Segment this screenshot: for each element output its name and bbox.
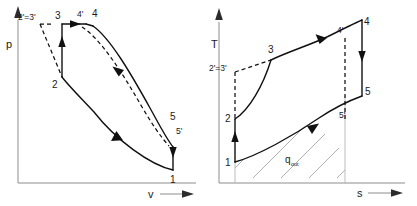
pv-arrow-5-to-1: [169, 147, 176, 158]
ts-label-1: 1: [225, 157, 231, 168]
pv-process-4prime-to-4: [86, 24, 93, 26]
ts-dashed-2p3p-to-3: [235, 60, 271, 72]
pv-label-4prime: 4': [77, 9, 84, 19]
pv-diagram-svg: p v: [0, 0, 209, 206]
ts-arrow-4-to-5: [358, 51, 365, 62]
ts-label-5: 5: [365, 86, 371, 97]
ts-process-5-to-1: [235, 96, 362, 162]
pv-diagram-panel: p v: [0, 0, 209, 206]
ts-process-3-to-4: [271, 20, 362, 60]
pv-dashed-expansion-4p-5p: [82, 27, 169, 146]
ts-solid-path-group: [235, 20, 362, 162]
pv-y-axis-label: p: [6, 38, 12, 50]
pv-solid-path-group: [62, 24, 173, 170]
ts-x-axis-label-group: s: [357, 187, 403, 199]
qout-label-symbol: q: [285, 154, 291, 165]
pv-x-axis-label-group: v: [148, 188, 194, 200]
ts-label-4prime: 4': [337, 25, 344, 35]
pv-process-4-to-5: [93, 26, 173, 147]
pv-axes: [14, 6, 196, 183]
pv-label-5: 5: [170, 111, 176, 122]
pv-label-2prime-3prime: 2'=3': [18, 12, 36, 22]
pv-label-3: 3: [55, 10, 61, 21]
pv-label-2: 2: [52, 79, 58, 90]
pv-process-1-to-2: [62, 77, 173, 170]
ts-arrow-3-to-4: [316, 34, 327, 44]
ts-label-2prime-3prime: 2'=3': [209, 63, 227, 73]
qout-hatching: [209, 78, 409, 206]
pv-dashed-2p3p-to-2: [40, 24, 62, 77]
qout-label-subscript: out: [291, 161, 299, 167]
ts-label-3: 3: [268, 44, 274, 55]
ts-y-axis-label: T: [211, 38, 218, 50]
pv-label-1: 1: [170, 174, 176, 185]
pv-arrow-2-to-3: [58, 36, 65, 47]
qout-area: [209, 78, 409, 206]
ts-label-5prime: 5': [339, 110, 346, 120]
pv-arrow-3-to-4prime: [70, 20, 81, 27]
ts-diagram-panel: T s: [209, 0, 417, 206]
pv-flow-arrows: [58, 20, 176, 158]
ts-y-axis-arrow-icon: [215, 8, 223, 20]
figure-root: p v: [0, 0, 417, 206]
ts-dashed-group: [235, 38, 345, 119]
ts-diagram-svg: T s: [209, 0, 417, 206]
ts-x-axis-label: s: [357, 187, 363, 199]
pv-x-axis-label-arrow-icon: [182, 190, 194, 197]
ts-axes: [215, 8, 405, 183]
qout-label-group: q out: [285, 154, 299, 167]
ts-arrow-1-to-2: [231, 131, 238, 142]
ts-x-axis-label-arrow-icon: [391, 189, 403, 196]
pv-label-5prime: 5': [176, 126, 183, 136]
pv-x-axis-label: v: [148, 188, 154, 200]
ts-label-2: 2: [225, 113, 231, 124]
pv-label-4: 4: [92, 8, 98, 19]
ts-label-4: 4: [364, 16, 370, 27]
pv-dashed-path-group: [40, 24, 169, 146]
ts-process-2-to-3: [235, 60, 271, 119]
